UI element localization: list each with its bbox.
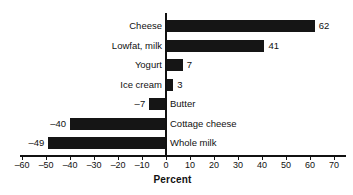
category-label: Lowfat, milk xyxy=(112,40,162,52)
value-label: 62 xyxy=(319,20,330,32)
bar xyxy=(166,40,264,52)
bar xyxy=(48,137,166,149)
value-label: 3 xyxy=(177,79,182,91)
bar xyxy=(166,59,183,71)
category-label: Ice cream xyxy=(120,79,162,91)
category-label: Whole milk xyxy=(170,137,216,149)
bar xyxy=(149,98,166,110)
bar xyxy=(166,20,315,32)
category-label: Yogurt xyxy=(135,59,162,71)
bar xyxy=(166,79,173,91)
value-label: –7 xyxy=(0,98,145,110)
x-tick-label: 70 xyxy=(319,160,349,170)
plot-area: Cheese62Lowfat, milk41Yogurt7Ice cream3B… xyxy=(0,0,353,195)
value-label: –49 xyxy=(0,137,44,149)
category-label: Cheese xyxy=(129,20,162,32)
bar-chart: Cheese62Lowfat, milk41Yogurt7Ice cream3B… xyxy=(0,0,353,195)
category-label: Butter xyxy=(170,98,195,110)
category-label: Cottage cheese xyxy=(170,118,237,130)
value-label: –40 xyxy=(0,118,66,130)
zero-axis-line xyxy=(165,13,167,156)
value-label: 41 xyxy=(268,40,279,52)
x-axis-title: Percent xyxy=(0,174,345,185)
bar xyxy=(70,118,166,130)
value-label: 7 xyxy=(187,59,192,71)
